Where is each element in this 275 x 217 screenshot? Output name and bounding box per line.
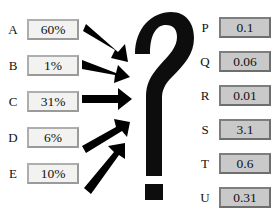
- question-mark-icon: [122, 8, 194, 200]
- output-label-q: Q: [198, 55, 212, 68]
- output-value-u: 0.31: [219, 187, 271, 208]
- input-row-b: B 1%: [6, 55, 79, 76]
- input-label-d: D: [6, 131, 20, 144]
- input-label-b: B: [6, 59, 20, 72]
- output-value-s: 3.1: [219, 119, 271, 140]
- output-value-q: 0.06: [219, 51, 271, 72]
- input-row-e: E 10%: [6, 163, 79, 184]
- input-label-a: A: [6, 23, 20, 36]
- output-row-u: U 0.31: [198, 187, 271, 208]
- output-value-p: 0.1: [219, 17, 271, 38]
- output-row-p: P 0.1: [198, 17, 271, 38]
- output-label-r: R: [198, 89, 212, 102]
- input-label-c: C: [6, 95, 20, 108]
- output-label-s: S: [198, 123, 212, 136]
- input-value-d: 6%: [27, 127, 79, 148]
- output-label-p: P: [198, 21, 212, 34]
- output-row-q: Q 0.06: [198, 51, 271, 72]
- output-label-t: T: [198, 157, 212, 170]
- output-label-u: U: [198, 191, 212, 204]
- input-row-a: A 60%: [6, 19, 79, 40]
- input-label-e: E: [6, 167, 20, 180]
- input-row-d: D 6%: [6, 127, 79, 148]
- output-row-t: T 0.6: [198, 153, 271, 174]
- diagram-canvas: A 60% B 1% C 31% D 6% E 10%: [0, 0, 275, 217]
- input-value-b: 1%: [27, 55, 79, 76]
- output-value-r: 0.01: [219, 85, 271, 106]
- input-value-c: 31%: [27, 91, 79, 112]
- input-value-e: 10%: [27, 163, 79, 184]
- arrow-e-icon: [84, 143, 125, 194]
- input-row-c: C 31%: [6, 91, 79, 112]
- output-value-t: 0.6: [219, 153, 271, 174]
- output-row-r: R 0.01: [198, 85, 271, 106]
- output-row-s: S 3.1: [198, 119, 271, 140]
- input-value-a: 60%: [27, 19, 79, 40]
